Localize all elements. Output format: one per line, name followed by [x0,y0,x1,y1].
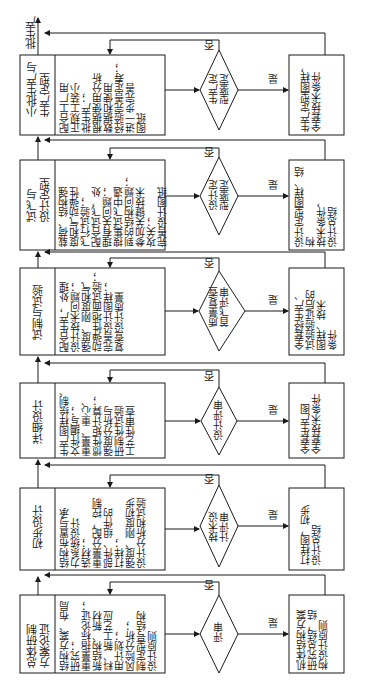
stage-tasks-trial-production: 配合生产，处理 设计技术问题； 强度、刚度和气 动弹性地面试验； 完善设计图样；… [59,272,125,352]
yes-label: 是 [268,510,279,520]
no-label: 否 [204,580,215,590]
decision-review: 评审 [213,622,224,642]
stage-tasks-overall-plan: 结构方案、布局 研究； 重量指标论证； 新结构、新材 料、新工艺应 用计划； 风… [59,598,158,671]
stage-name-trial-production: 试制与试验 [32,285,45,340]
decision-production-certification: 生产定 型鉴定 [208,74,230,104]
output-trial-production: 全套经生产、 试验验证后的 图样、技术 条件 [294,272,338,350]
decision-technical-design-review: 技术设 计评审 [208,512,230,542]
output-batch-production-label: 批生产 [26,16,37,49]
output-overall-plan: 机体结构方案 研究总结，结 构设计原则 [296,598,329,670]
no-label: 否 [204,147,215,157]
no-label: 否 [204,258,215,268]
yes-label: 是 [268,74,279,84]
decision-design-certification: 设计定 型鉴定 [208,180,230,210]
no-label: 否 [204,474,215,484]
stage-tasks-small-batch: 配合工厂用 正规工装小 批生产； 根据使用分析 数据和使用 经验完善定寿； 进一… [59,58,147,133]
stage-tasks-detailed-design: 生产图样绘制、 文件编写； 重量、重心、 惯性矩计算； 强度分析与 研制性试验 … [59,386,136,456]
output-small-batch: 生产定型图样， 全套技术条件 [300,60,322,132]
yes-label: 是 [268,405,279,415]
stage-name-small-batch: 小批生产与 生产定型 [26,62,52,117]
stage-tasks-preliminary-design: 结构布置与承 力系统设计 选材； 重量分配，控制 部件、组件的 打样； 强度、刚… [59,491,147,568]
no-label: 否 [204,371,215,381]
output-detailed-design: 全套生产图 全套技术条件 [300,388,322,454]
decision-quality-first-flight-review: 质量复查 首飞评审 [208,287,230,327]
yes-label: 是 [268,180,279,190]
stage-name-overall-plan: 总体研制 方案论证 [26,602,52,668]
no-label: 否 [204,40,215,50]
yes-label: 是 [268,618,279,628]
stage-name-preliminary-design: 初步设计 [32,505,45,549]
stage-name-detailed-design: 详细设计 [32,400,45,444]
output-flight-test: 设计定型图样、结构 技术条件， 设计总结 [294,163,338,247]
decision-design-review: 设计评审 [213,400,224,440]
stage-name-flight-test: 试飞与 设计定型 [26,178,52,222]
stage-tasks-flight-test: 载荷、结构强 度和气动弹性 飞行试验； 配合试飞，处 理有关问题； 搜集试飞中遇… [58,163,168,247]
yes-label: 是 [268,295,279,305]
output-preliminary-design: 打样图，初步 设计总结 [300,495,322,565]
